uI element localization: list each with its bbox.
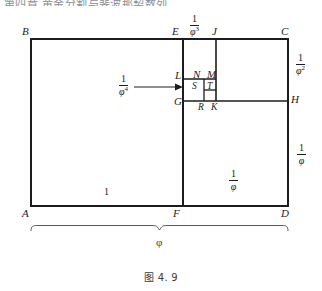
vertex-label-F: F <box>173 208 180 219</box>
measure-1-over-phi-right: 1 φ <box>297 143 306 166</box>
measure-1-over-phi-squared: 1 φ2 <box>296 53 305 76</box>
fraction-numerator: 1 <box>229 169 238 181</box>
measure-one-bottom: 1 <box>104 186 109 197</box>
measure-arrow-head <box>175 84 183 91</box>
vertex-label-G: G <box>174 96 182 107</box>
vertex-label-D: D <box>281 208 289 219</box>
vertex-label-L: L <box>175 70 181 81</box>
fraction-numerator: 1 <box>297 143 306 155</box>
fraction-denominator: φ3 <box>190 26 199 37</box>
figure-caption: 图 4. 9 <box>0 269 322 284</box>
fraction-denominator: φ4 <box>119 86 128 97</box>
outer-rectangle-ABCD <box>31 39 288 206</box>
vertex-label-C: C <box>281 26 288 37</box>
measure-1-over-phi-cubed: 1 φ3 <box>190 14 199 37</box>
vertex-label-S: S <box>192 82 197 92</box>
vertex-label-K: K <box>211 103 217 113</box>
vertex-label-A: A <box>22 208 29 219</box>
brace-label-phi: φ <box>156 236 162 248</box>
fraction-denominator: φ2 <box>296 65 305 76</box>
vertex-label-M: M <box>207 69 216 80</box>
vertex-label-R: R <box>198 103 204 113</box>
vertex-label-T: T <box>207 82 212 92</box>
vertex-label-J: J <box>212 26 217 37</box>
vertex-label-B: B <box>22 26 29 37</box>
vertex-label-N: N <box>193 69 200 80</box>
fraction-denominator: φ <box>297 155 306 166</box>
fraction-denominator: φ <box>229 181 238 192</box>
measure-1-over-phi-fourth: 1 φ4 <box>119 74 128 97</box>
vertex-label-H: H <box>291 94 299 105</box>
figure-root: 第四章 黄金分割与斐波那契数列 B C A D E F G H J K L M … <box>0 0 322 291</box>
vertex-label-E: E <box>172 26 179 37</box>
measure-1-over-phi-bottom: 1 φ <box>229 169 238 192</box>
width-brace <box>31 226 288 232</box>
